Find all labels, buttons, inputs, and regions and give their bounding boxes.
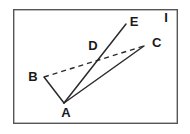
point-label-B: B xyxy=(28,69,37,84)
point-label-E: E xyxy=(130,14,139,29)
point-label-D: D xyxy=(88,38,97,53)
geometry-figure: A B C D E I xyxy=(0,0,190,134)
figure-border xyxy=(14,10,178,124)
point-label-I: I xyxy=(164,10,168,25)
point-label-A: A xyxy=(61,105,71,120)
point-label-C: C xyxy=(152,35,162,50)
figure-canvas: A B C D E I xyxy=(0,0,190,134)
